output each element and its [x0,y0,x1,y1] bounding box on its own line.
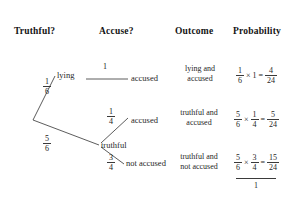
outcome-truthful-accused: truthful and accused [168,108,230,128]
sum-divider-rule [236,178,276,179]
calc1-operator: × [244,71,253,80]
calc3-operand-b: 3 4 [251,153,259,172]
calc3-operand-a: 5 6 [234,153,242,172]
fraction-one-sixth: 1 6 [43,77,51,96]
calc2-operand-a: 5 6 [234,110,242,129]
calc2-operand-b: 1 4 [251,110,259,129]
probability-tree-diagram: Truthful? Accuse? Outcome Probability ly… [0,0,289,204]
calc1-equals: = [257,71,266,80]
fraction-three-quarters: 3 4 [107,153,115,172]
edge-label-accused-top-probability: 1 [103,62,107,71]
calc3-equals: = [259,158,268,167]
calc3-result: 15 24 [267,153,279,172]
edge-label-truthful-probability: 5 6 [43,133,51,153]
calc1-result: 4 24 [265,66,277,85]
outcome-truthful-not-accused: truthful and not accused [168,152,230,172]
probability-calculation-row-2: 5 6 × 1 4 = 5 24 [234,110,279,129]
probability-calculation-row-1: 1 6 × 1 = 4 24 [236,66,277,85]
calc2-result: 5 24 [267,110,279,129]
probability-calculation-row-3: 5 6 × 3 4 = 15 24 [234,153,279,172]
calc3-operator: × [242,158,251,167]
node-not-accused: not accused [126,158,166,168]
tree-branch-lines [0,0,289,204]
node-accused-middle: accused [131,115,158,125]
calc2-equals: = [259,115,268,124]
edge-label-accused-middle-probability: 1 4 [107,106,115,126]
edge-label-lying-probability: 1 6 [43,76,51,96]
node-truthful: truthful [101,140,127,150]
node-lying: lying [57,70,74,80]
calc2-operator: × [242,115,251,124]
outcome-lying-accused: lying and accused [172,64,228,84]
probability-sum-total: 1 [236,181,276,190]
calc1-operand-a: 1 6 [236,66,244,85]
fraction-five-sixths: 5 6 [43,134,51,153]
node-accused-top: accused [131,73,158,83]
edge-label-not-accused-probability: 3 4 [107,152,115,172]
fraction-one-quarter: 1 4 [107,107,115,126]
